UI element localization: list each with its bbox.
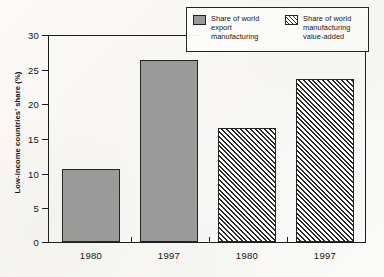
legend-entry-manufacturing-value-added: Share of world manufacturing value-added	[285, 14, 367, 42]
y-tick-mark	[42, 35, 49, 36]
x-axis-label-1: 1997	[134, 250, 204, 261]
bar-1997-export-manufacturing	[140, 60, 198, 242]
y-tick-mark	[42, 174, 49, 175]
bar-1980-manufacturing-value-added	[218, 128, 276, 242]
bar-1997-manufacturing-value-added	[296, 79, 354, 242]
y-tick-mark	[42, 208, 49, 209]
x-axis-label-3: 1997	[290, 250, 360, 261]
legend-label-line-3: value-added	[303, 32, 351, 41]
y-tick-mark	[42, 104, 49, 105]
y-tick-label-0: 0	[9, 237, 39, 248]
x-axis-label-2: 1980	[212, 250, 282, 261]
y-tick-label-10: 10	[9, 169, 39, 180]
y-tick-label-30: 30	[9, 30, 39, 41]
chart-legend: Share of world export manufacturing Shar…	[186, 7, 369, 52]
solid-gray-swatch-icon	[193, 15, 206, 25]
legend-label-export-manufacturing: Share of world export manufacturing	[211, 14, 281, 42]
x-tick-mark	[209, 237, 210, 243]
y-axis-title: Low-income countries' share (%)	[13, 53, 22, 213]
hatched-swatch-icon	[285, 15, 298, 25]
x-axis-label-0: 1980	[56, 250, 126, 261]
x-tick-mark	[287, 237, 288, 243]
y-tick-label-15: 15	[9, 134, 39, 145]
top-reference-rule	[48, 35, 198, 36]
legend-label-line-2: manufacturing	[303, 23, 351, 32]
y-tick-label-5: 5	[9, 203, 39, 214]
bar-chart-figure: Low-income countries' share (%) 30 25 20…	[0, 0, 384, 277]
x-axis-line	[48, 242, 366, 243]
y-tick-mark	[42, 70, 49, 71]
y-tick-mark	[42, 242, 49, 243]
bar-1980-export-manufacturing	[62, 169, 120, 243]
x-tick-mark	[131, 237, 132, 243]
legend-label-manufacturing-value-added: Share of world manufacturing value-added	[303, 14, 351, 42]
legend-label-line-1: Share of world	[211, 14, 281, 23]
legend-label-line-2: export manufacturing	[211, 23, 281, 41]
plot-right-border	[365, 52, 366, 243]
y-tick-label-20: 20	[9, 99, 39, 110]
y-tick-label-25: 25	[9, 65, 39, 76]
legend-entry-export-manufacturing: Share of world export manufacturing	[193, 14, 281, 42]
legend-label-line-1: Share of world	[303, 14, 351, 23]
y-tick-mark	[42, 139, 49, 140]
